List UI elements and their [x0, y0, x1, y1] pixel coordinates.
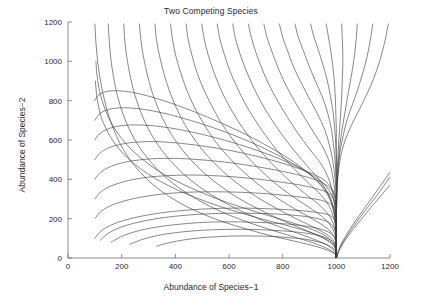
- y-axis-label: Abundance of Species−2: [17, 65, 27, 225]
- trajectory-curve: [336, 24, 388, 258]
- trajectory-curve: [336, 177, 390, 258]
- trajectory-curve: [95, 125, 337, 258]
- trajectory-curve: [336, 185, 390, 258]
- x-tick-label: 600: [222, 262, 235, 271]
- trajectory-curve: [95, 108, 337, 258]
- trajectory-curves: [95, 24, 390, 258]
- axes-group: [68, 22, 390, 258]
- y-tick-label: 400: [34, 175, 62, 184]
- trajectory-curve: [95, 175, 337, 258]
- trajectory-curve: [311, 24, 337, 258]
- y-tick-label: 600: [34, 136, 62, 145]
- phase-portrait-plot: [0, 0, 422, 302]
- trajectory-curve: [157, 236, 337, 258]
- trajectory-curve: [95, 24, 338, 258]
- trajectory-curve: [108, 24, 337, 258]
- x-tick-label: 0: [66, 262, 70, 271]
- y-tick-label: 0: [34, 254, 62, 263]
- figure-canvas: Two Competing Species 020040060080010001…: [0, 0, 422, 302]
- trajectory-curve: [139, 24, 336, 258]
- y-tick-label: 200: [34, 214, 62, 223]
- x-axis-label: Abundance of Species−1: [0, 282, 422, 292]
- x-tick-label: 400: [169, 262, 182, 271]
- trajectory-curve: [155, 24, 336, 258]
- x-tick-label: 800: [276, 262, 289, 271]
- x-tick-label: 200: [115, 262, 128, 271]
- trajectory-curve: [95, 142, 337, 258]
- trajectory-curve: [95, 81, 336, 258]
- x-tick-label: 1000: [327, 262, 345, 271]
- trajectory-curve: [111, 222, 337, 258]
- y-tick-label: 1200: [34, 18, 62, 27]
- trajectory-curve: [295, 24, 336, 258]
- trajectory-curve: [96, 61, 337, 258]
- x-tick-label: 1200: [381, 262, 399, 271]
- trajectory-curve: [336, 172, 390, 258]
- trajectory-curve: [186, 24, 336, 258]
- y-tick-label: 1000: [34, 57, 62, 66]
- trajectory-curve: [95, 158, 337, 258]
- trajectory-curve: [336, 24, 373, 258]
- y-tick-label: 800: [34, 96, 62, 105]
